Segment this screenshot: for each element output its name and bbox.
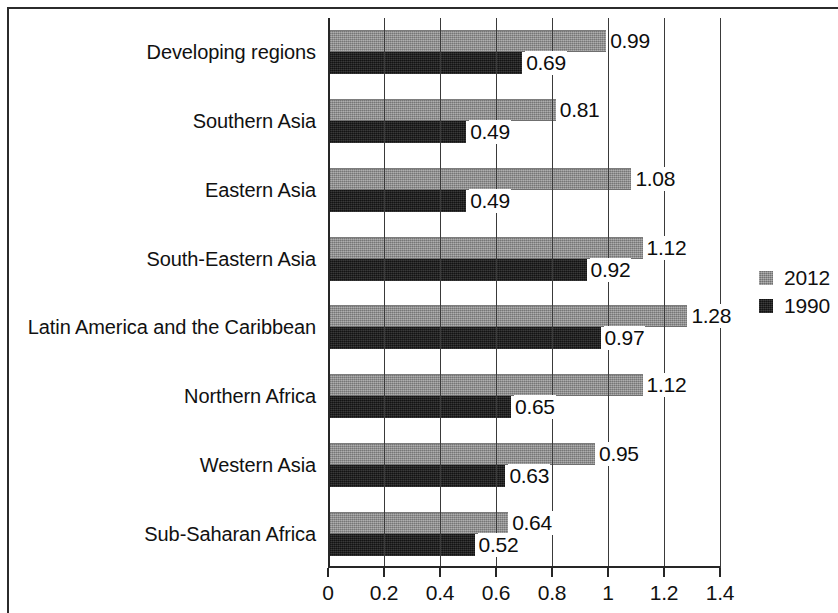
legend-label-2012: 2012 [784, 266, 830, 290]
value-axis-origin-line [328, 18, 330, 568]
value-label-1990-8: 0.52 [478, 533, 520, 557]
x-axis-tick-label: 0.4 [426, 581, 455, 605]
category-label-8: Sub-Saharan Africa [144, 522, 316, 545]
gridline [496, 18, 497, 568]
bar-1990-6 [329, 396, 511, 418]
x-axis-tick [719, 568, 721, 577]
gridline [440, 18, 441, 568]
gridline [552, 18, 553, 568]
value-label-2012-7: 0.95 [598, 442, 640, 466]
chart-figure: Developing regionsSouthern AsiaEastern A… [0, 0, 838, 613]
gridline [384, 18, 385, 568]
x-axis-tick [663, 568, 665, 577]
x-axis-tick [607, 568, 609, 577]
figure-frame-left-border [7, 7, 9, 613]
category-label-6: Northern Africa [184, 385, 316, 408]
x-axis-tick-label: 1.2 [650, 581, 679, 605]
gridline [608, 18, 609, 568]
value-label-2012-4: 1.12 [646, 236, 688, 260]
gridline [720, 18, 721, 568]
value-label-1990-2: 0.49 [469, 120, 511, 144]
category-label-1: Developing regions [147, 41, 316, 64]
x-axis-line [328, 566, 720, 568]
value-label-1990-3: 0.49 [469, 189, 511, 213]
value-label-1990-4: 0.92 [590, 258, 632, 282]
bar-1990-5 [329, 327, 601, 349]
x-axis-tick [383, 568, 385, 577]
value-label-1990-5: 0.97 [604, 326, 646, 350]
value-label-2012-3: 1.08 [634, 167, 676, 191]
x-axis-tick [495, 568, 497, 577]
category-label-4: South-Eastern Asia [147, 247, 316, 270]
bar-2012-5 [329, 305, 687, 327]
value-label-2012-1: 0.99 [609, 29, 651, 53]
bar-1990-3 [329, 190, 466, 212]
value-label-2012-5: 1.28 [690, 304, 732, 328]
bar-2012-2 [329, 99, 556, 121]
bar-1990-2 [329, 121, 466, 143]
figure-frame-top-border [7, 7, 838, 9]
bar-2012-8 [329, 512, 508, 534]
bar-2012-6 [329, 374, 643, 396]
bar-1990-4 [329, 259, 587, 281]
category-label-7: Western Asia [200, 453, 316, 476]
category-label-3: Eastern Asia [205, 178, 316, 201]
value-label-2012-6: 1.12 [646, 373, 688, 397]
value-label-2012-8: 0.64 [511, 511, 553, 535]
value-label-1990-6: 0.65 [514, 395, 556, 419]
plot-area: 00.20.40.60.811.21.4 0.990.690.810.491.0… [328, 18, 720, 568]
x-axis-tick-label: 1 [602, 581, 613, 605]
legend-swatch-icon-1990 [759, 299, 773, 313]
legend-swatch-icon-2012 [759, 271, 773, 285]
x-axis-tick [327, 568, 329, 577]
bar-1990-8 [329, 534, 475, 556]
chart-legend: 20121990 [759, 264, 830, 320]
category-label-5: Latin America and the Caribbean [28, 316, 316, 339]
value-label-1990-1: 0.69 [525, 51, 567, 75]
bar-2012-1 [329, 30, 606, 52]
legend-label-1990: 1990 [784, 294, 830, 318]
x-axis-tick-label: 0.2 [370, 581, 399, 605]
x-axis-tick-label: 1.4 [706, 581, 735, 605]
legend-item-1990[interactable]: 1990 [759, 292, 830, 320]
value-label-2012-2: 0.81 [559, 98, 601, 122]
x-axis-tick-label: 0.6 [482, 581, 511, 605]
x-axis-tick [439, 568, 441, 577]
bar-2012-7 [329, 443, 595, 465]
x-axis-tick-label: 0 [322, 581, 333, 605]
value-label-1990-7: 0.63 [508, 464, 550, 488]
x-axis-tick-label: 0.8 [538, 581, 567, 605]
bar-2012-3 [329, 168, 631, 190]
bar-1990-1 [329, 52, 522, 74]
bar-1990-7 [329, 465, 505, 487]
category-label-2: Southern Asia [193, 110, 316, 133]
legend-item-2012[interactable]: 2012 [759, 264, 830, 292]
x-axis-tick [551, 568, 553, 577]
gridline [664, 18, 665, 568]
bar-2012-4 [329, 237, 643, 259]
